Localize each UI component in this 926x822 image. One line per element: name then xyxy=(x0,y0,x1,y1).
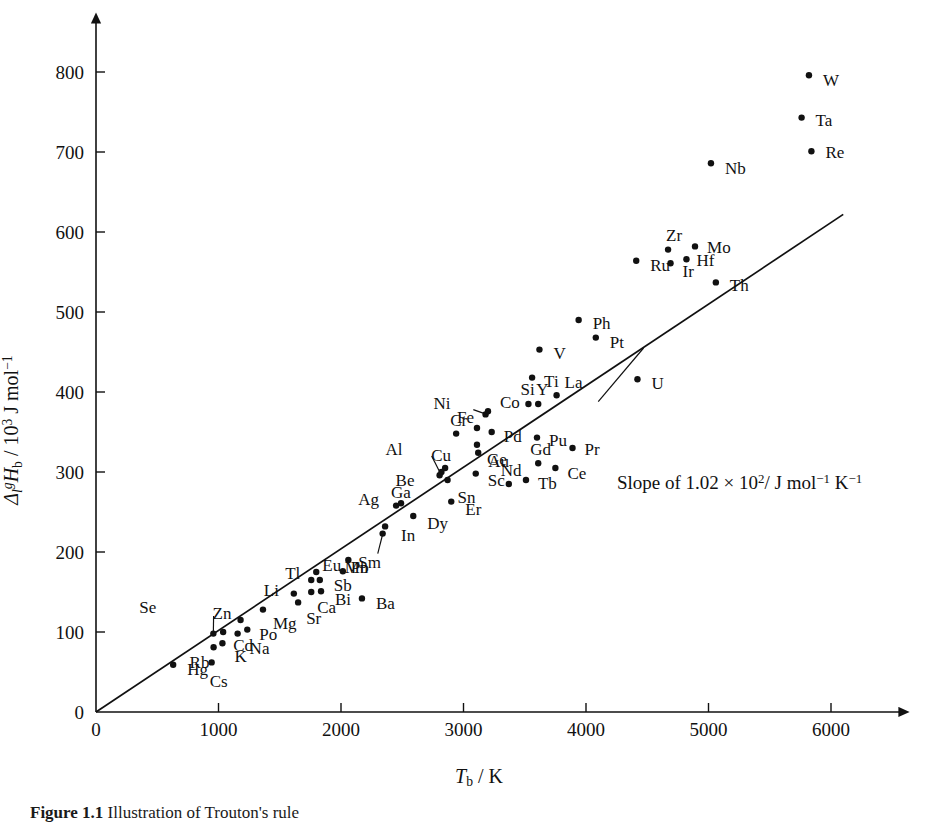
data-point-Sb xyxy=(317,577,323,583)
data-point-Hf xyxy=(683,256,689,262)
data-point-In xyxy=(382,523,388,529)
point-label-Zn: Zn xyxy=(213,604,232,623)
y-tick-label-500: 500 xyxy=(56,302,85,323)
data-point-Ru xyxy=(633,258,639,264)
data-point-Tb xyxy=(523,477,529,483)
point-label-Dy: Dy xyxy=(427,514,448,533)
slope-annotation-base: 10 xyxy=(739,472,758,493)
data-point-Se xyxy=(210,630,216,636)
data-point-Ta xyxy=(798,114,804,120)
x-tick-label-1000: 1000 xyxy=(200,719,238,740)
data-point-Si xyxy=(525,401,531,407)
point-label-Nb: Nb xyxy=(725,159,746,178)
x-tick-label-2000: 2000 xyxy=(322,719,360,740)
y-tick-label-100: 100 xyxy=(56,622,85,643)
figure-caption-number: Figure 1.1 xyxy=(30,803,103,822)
data-point-Mg xyxy=(260,606,266,612)
data-point-Tl xyxy=(308,577,314,583)
data-point-Y xyxy=(535,401,541,407)
point-label-Rb: Rb xyxy=(190,653,210,672)
data-point-Li xyxy=(291,590,297,596)
point-label-Ru: Ru xyxy=(650,256,670,275)
data-point-Ba xyxy=(359,595,365,601)
point-label-Mo: Mo xyxy=(707,238,731,257)
point-label-Th: Th xyxy=(730,276,749,295)
data-point-Nd xyxy=(506,481,512,487)
point-label-Fe: Fe xyxy=(457,408,474,427)
point-label-Li: Li xyxy=(264,581,279,600)
point-label-Cu: Cu xyxy=(431,446,451,465)
data-point-Fe xyxy=(474,425,480,431)
data-point-Sn xyxy=(444,477,450,483)
point-label-Cs: Cs xyxy=(210,672,228,691)
point-label-Tl: Tl xyxy=(285,564,300,583)
data-point-Nb xyxy=(708,160,714,166)
data-point-Ti xyxy=(529,374,535,380)
data-point-Mo xyxy=(692,243,698,249)
figure-container: 0100020003000400050006000 01002003004005… xyxy=(0,0,926,822)
data-point-Dy xyxy=(410,513,416,519)
data-point-Ce xyxy=(552,465,558,471)
point-label-Ta: Ta xyxy=(816,111,833,130)
leader-line-slope-pointer xyxy=(598,348,643,402)
x-axis-title: Tb / K xyxy=(455,765,503,790)
y-tick-label-200: 200 xyxy=(56,542,85,563)
y-tick-label-400: 400 xyxy=(56,382,85,403)
data-points: HgCsRbKSeCdNaPoZnMgSrLiCaBaBiSbTlEuPbSmM… xyxy=(139,71,844,691)
leader-line-Mn xyxy=(378,535,383,553)
data-point-W xyxy=(806,72,812,78)
point-label-Eu: Eu xyxy=(322,556,341,575)
data-point-Ca xyxy=(308,589,314,595)
point-label-Pu: Pu xyxy=(549,431,567,450)
data-point-Ph xyxy=(575,317,581,323)
point-label-Sc: Sc xyxy=(488,471,505,490)
figure-caption: Figure 1.1 Illustration of Trouton's rul… xyxy=(30,803,910,822)
point-label-Ce: Ce xyxy=(567,464,586,483)
data-point-Cd xyxy=(220,629,226,635)
data-point-Er xyxy=(448,498,454,504)
slope-annotation-units-exp2: −1 xyxy=(848,471,862,486)
slope-annotation-units-mid: K xyxy=(830,472,848,493)
point-label-Ph: Ph xyxy=(593,314,611,333)
data-point-Bi xyxy=(318,588,324,594)
point-label-Sb: Sb xyxy=(334,576,352,595)
data-point-Sr xyxy=(295,599,301,605)
point-label-V: V xyxy=(553,344,566,363)
data-point-Pd xyxy=(488,429,494,435)
point-label-U: U xyxy=(651,374,663,393)
x-tick-label-0: 0 xyxy=(91,719,101,740)
point-label-Ba: Ba xyxy=(376,594,395,613)
point-label-Pd: Pd xyxy=(504,427,522,446)
y-tick-label-0: 0 xyxy=(75,702,85,723)
point-label-Mn: Mn xyxy=(345,558,369,577)
x-tick-label-3000: 3000 xyxy=(445,719,483,740)
data-point-Th xyxy=(713,279,719,285)
y-axis-title: ΔlgHb / 103 J mol−1 xyxy=(0,300,26,560)
point-label-Si: Si xyxy=(520,380,534,399)
point-label-Sn: Sn xyxy=(458,488,476,507)
point-label-Mg: Mg xyxy=(273,614,297,633)
point-label-Tb: Tb xyxy=(538,474,557,493)
data-point-La xyxy=(553,392,559,398)
figure-caption-text: Illustration of Trouton's rule xyxy=(108,803,299,822)
x-tick-label-6000: 6000 xyxy=(812,719,850,740)
data-point-Na xyxy=(234,630,240,636)
data-point-Rb xyxy=(210,644,216,650)
point-label-Ag: Ag xyxy=(358,490,379,509)
x-tick-label-4000: 4000 xyxy=(567,719,605,740)
data-point-Gd xyxy=(535,460,541,466)
slope-annotation-units-pre: / J mol xyxy=(765,472,817,493)
slope-annotation-units-exp1: −1 xyxy=(816,471,830,486)
point-label-Al: Al xyxy=(385,440,402,459)
point-label-W: W xyxy=(823,71,840,90)
data-point-Pt xyxy=(593,334,599,340)
x-axis-ticks: 0100020003000400050006000 xyxy=(91,703,850,740)
point-label-Ir: Ir xyxy=(683,262,695,281)
y-axis-ticks: 0100200300400500600700800 xyxy=(56,62,106,723)
point-label-Se: Se xyxy=(139,598,156,617)
data-point-U xyxy=(634,376,640,382)
y-tick-label-300: 300 xyxy=(56,462,85,483)
y-tick-label-700: 700 xyxy=(56,142,85,163)
point-label-In: In xyxy=(401,526,416,545)
data-point-Pr xyxy=(569,445,575,451)
